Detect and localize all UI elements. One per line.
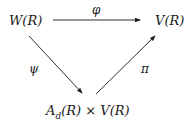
label-phi: φ	[92, 4, 100, 16]
product-base: A	[46, 103, 55, 118]
label-psi: ψ	[29, 63, 38, 75]
node-w-r: W(R)	[9, 14, 42, 27]
node-product: Ad(R) × V(R)	[46, 104, 130, 121]
product-rest: (R) × V(R)	[61, 103, 129, 118]
label-pi: π	[141, 63, 149, 75]
node-v-r: V(R)	[155, 14, 184, 27]
